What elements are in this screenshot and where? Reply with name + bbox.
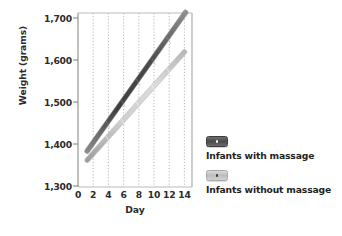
x-axis-title: Day (78, 204, 192, 215)
legend-item-with-massage: Infants with massage (206, 136, 342, 161)
legend-label: Infants without massage (206, 184, 342, 195)
chart-legend: Infants with massage Infants without mas… (206, 136, 342, 204)
x-tick-label: 14 (173, 189, 195, 200)
swatch-dot-icon (216, 174, 219, 177)
light-swatch-icon (206, 170, 228, 181)
series-line-without-massage (87, 52, 184, 160)
dark-swatch-icon (206, 136, 228, 147)
swatch-dot-icon (216, 140, 219, 143)
legend-item-without-massage: Infants without massage (206, 170, 342, 195)
chart-figure: Weight (grams) 1,700 1,600 1,500 1,400 1… (0, 0, 342, 236)
y-axis-ticks (73, 18, 78, 186)
axis-frame (78, 13, 192, 187)
legend-label: Infants with massage (206, 150, 342, 161)
series-line-with-massage (87, 13, 185, 152)
